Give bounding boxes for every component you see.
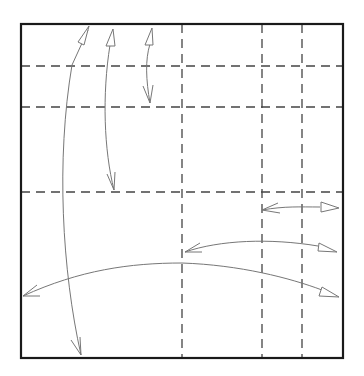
hollow-arrowhead-icon xyxy=(321,202,339,212)
arrow-mid-vertical xyxy=(105,45,114,190)
origami-diagram xyxy=(0,0,364,376)
open-arrowhead-icon xyxy=(23,285,40,296)
hollow-arrowhead-icon xyxy=(78,26,89,45)
fold-arrows xyxy=(23,26,339,355)
crease-lines xyxy=(21,24,343,358)
hollow-arrowhead-icon xyxy=(319,287,339,297)
arrow-mid-horizontal xyxy=(185,241,318,252)
arrow-short-horizontal xyxy=(262,207,320,210)
hollow-arrowhead-icon xyxy=(145,28,153,45)
hollow-arrowhead-icon xyxy=(106,29,115,46)
hollow-arrowhead-icon xyxy=(318,243,337,252)
arrow-short-vertical xyxy=(147,44,150,103)
